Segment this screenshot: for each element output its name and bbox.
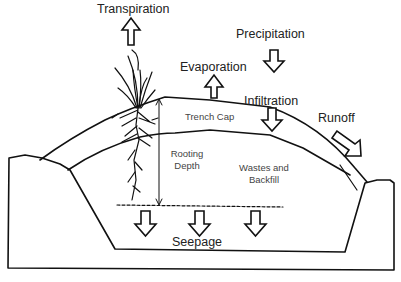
seepage-arrow-1	[135, 211, 156, 236]
wastes-label-line1: Wastes and	[234, 163, 294, 173]
evaporation-label: Evaporation	[180, 61, 247, 74]
trench-cover-diagram: Transpiration Precipitation Evaporation …	[0, 0, 401, 282]
rooting-depth-label-line1: Rooting	[168, 149, 206, 159]
rooting-depth-line	[117, 205, 283, 207]
evaporation-arrow	[205, 75, 223, 98]
transpiration-arrow	[122, 18, 140, 45]
plant-icon	[112, 50, 158, 200]
precipitation-arrow	[264, 50, 284, 72]
seepage-label: Seepage	[172, 236, 222, 249]
infiltration-label: Infiltration	[244, 95, 298, 108]
rooting-depth-label-line2: Depth	[168, 161, 206, 171]
transpiration-label: Transpiration	[97, 3, 170, 16]
wastes-label-line2: Backfill	[234, 175, 294, 185]
seepage-arrow-3	[245, 211, 266, 236]
trench-cap-label: Trench Cap	[185, 112, 234, 122]
seepage-arrow-2	[189, 211, 210, 236]
cap-bottom-surface	[68, 130, 350, 175]
infiltration-arrow	[262, 108, 282, 131]
runoff-arrow	[332, 131, 361, 156]
precipitation-label: Precipitation	[236, 28, 305, 41]
runoff-label: Runoff	[318, 112, 355, 125]
